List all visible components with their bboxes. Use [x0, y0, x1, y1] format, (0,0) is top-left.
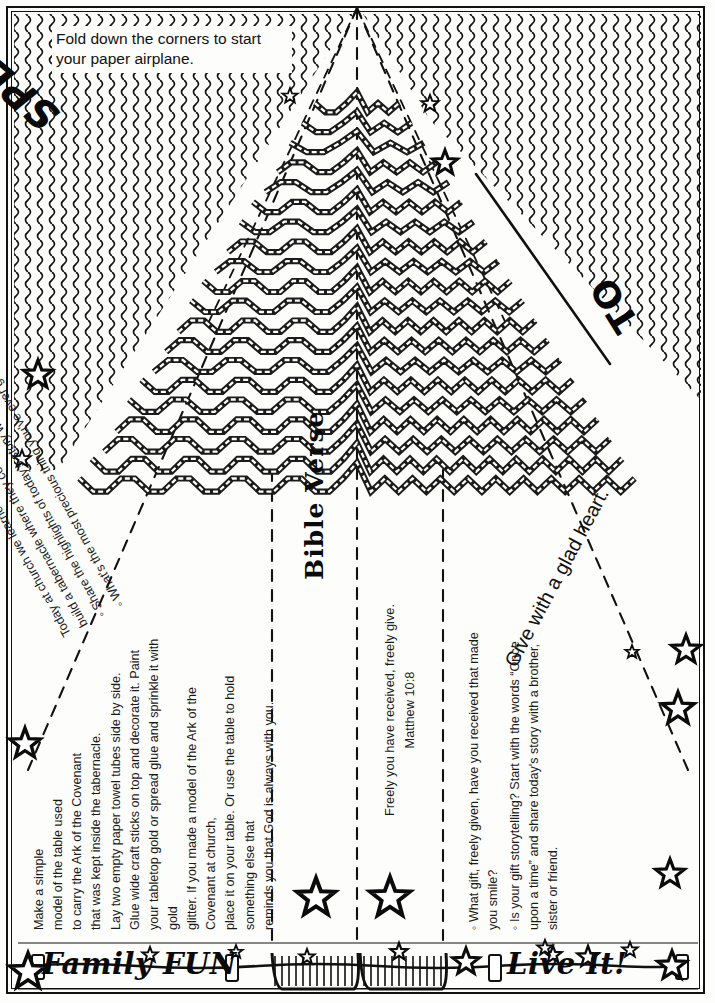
bible-verse-heading: Bible Verse: [300, 411, 329, 580]
family-fun-line: Glue wide craft sticks on top and decora…: [126, 630, 145, 930]
star-icon: [390, 943, 407, 959]
star-icon: [662, 692, 694, 723]
live-it-bullet-1: ◦ What gift, freely given, have you rece…: [465, 630, 503, 930]
family-fun-line: Lay two empty paper towel tubes side by …: [107, 630, 126, 930]
star-icon: [433, 150, 458, 174]
activity-sheet-page: Fold down the corners to start your pape…: [0, 0, 715, 1003]
fringe-icon: [272, 953, 447, 989]
family-fun-heading: Family FUN: [42, 947, 237, 981]
star-icon: [370, 877, 410, 915]
bible-verse-block: Freely you have received, freely give. M…: [380, 590, 420, 830]
family-fun-line: reminds you that God is always with you.: [260, 630, 279, 930]
bullet-marker: ◦: [508, 926, 522, 930]
live-it-heading: Live It!: [507, 947, 628, 981]
family-fun-line: place it on your table. Or use the table…: [221, 630, 259, 930]
family-fun-line: model of the table used: [49, 630, 68, 930]
star-icon: [672, 635, 701, 662]
fold-instruction-text: Fold down the corners to start your pape…: [52, 26, 292, 73]
family-fun-line: your tabletop gold or spread glue and sp…: [145, 630, 183, 930]
bullet-marker: ◦: [467, 926, 481, 930]
family-fun-line: glitter. If you made a model of the Ark …: [183, 630, 221, 930]
family-fun-line: to carry the Ark of the Covenant: [68, 630, 87, 930]
live-it-bullets: ◦ What gift, freely given, have you rece…: [465, 630, 565, 930]
bible-verse-text: Freely you have received, freely give.: [380, 590, 400, 830]
family-fun-line: that was kept inside the tabernacle.: [87, 630, 106, 930]
star-icon: [625, 645, 638, 658]
star-icon: [299, 949, 314, 964]
family-fun-instructions: Make a simple model of the table used to…: [30, 630, 279, 930]
family-fun-line: Make a simple: [30, 630, 49, 930]
live-it-bullet-2: ◦ Is your gift storytelling? Start with …: [506, 630, 563, 930]
star-icon: [656, 859, 685, 886]
bible-verse-reference: Matthew 10:8: [400, 590, 420, 830]
star-icon: [453, 948, 480, 973]
star-icon: [297, 878, 335, 914]
